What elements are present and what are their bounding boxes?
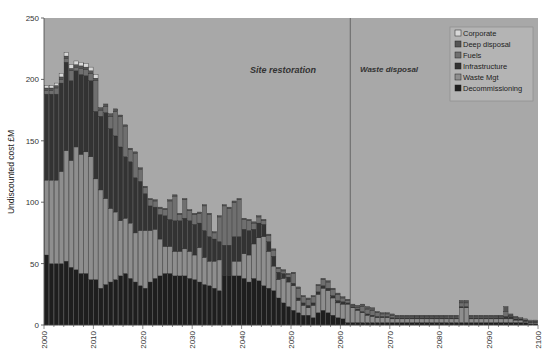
bar-segment	[435, 316, 439, 317]
bar-segment	[301, 305, 305, 315]
x-tick-label: 2010	[89, 330, 98, 348]
bar-segment	[489, 315, 493, 316]
bar-segment	[212, 233, 216, 239]
bar-segment	[99, 288, 103, 325]
bar-segment	[99, 108, 103, 110]
bar-segment	[311, 318, 315, 325]
bar-segment	[113, 109, 117, 111]
bar-segment	[276, 272, 280, 279]
bar-segment	[484, 319, 488, 323]
bar-segment	[316, 286, 320, 292]
bar-segment	[242, 229, 246, 254]
bar-segment	[405, 315, 409, 316]
bar-segment	[74, 65, 78, 67]
bar-segment	[158, 276, 162, 325]
bar-segment	[385, 316, 389, 317]
bar-segment	[405, 318, 409, 319]
y-tick-label: 100	[26, 198, 40, 207]
bar-segment	[420, 319, 424, 323]
bar-segment	[390, 315, 394, 317]
bar-segment	[331, 289, 335, 295]
bar-segment	[79, 273, 83, 325]
bar-segment	[435, 315, 439, 316]
bar-segment	[484, 318, 488, 319]
bar-segment	[44, 255, 48, 325]
bar-segment	[237, 199, 241, 200]
bar-segment	[252, 278, 256, 325]
bar-segment	[148, 206, 152, 231]
bar-segment	[153, 207, 157, 229]
bar-segment	[306, 299, 310, 305]
bar-segment	[104, 104, 108, 106]
bar-segment	[54, 83, 58, 85]
y-tick-label: 50	[30, 260, 39, 269]
bar-segment	[474, 315, 478, 316]
bar-segment	[306, 315, 310, 325]
bar-segment	[59, 77, 63, 79]
bar-segment	[410, 316, 414, 317]
bar-segment	[59, 79, 63, 83]
bar-segment	[286, 275, 290, 277]
bar-segment	[444, 318, 448, 319]
bar-segment	[232, 276, 236, 325]
bar-segment	[138, 230, 142, 285]
bar-segment	[44, 90, 48, 94]
bar-segment	[257, 216, 261, 217]
bar-segment	[173, 251, 177, 276]
bar-segment	[242, 218, 246, 219]
bar-segment	[104, 284, 108, 325]
bar-segment	[484, 315, 488, 316]
bar-segment	[109, 116, 113, 128]
bar-segment	[494, 316, 498, 317]
bar-segment	[430, 319, 434, 323]
bar-segment	[252, 229, 256, 244]
bar-segment	[459, 303, 463, 307]
bar-segment	[89, 280, 93, 325]
bar-segment	[64, 59, 68, 63]
bar-segment	[262, 286, 266, 325]
bar-segment	[346, 304, 350, 322]
bar-segment	[306, 298, 310, 299]
x-axis: 2000201020202030204020502060207020802090…	[40, 325, 543, 349]
bar-segment	[183, 199, 187, 200]
bar-segment	[69, 71, 73, 81]
bar-segment	[202, 284, 206, 325]
bar-segment	[212, 288, 216, 325]
bar-segment	[440, 318, 444, 319]
bar-segment	[415, 315, 419, 316]
bar-segment	[79, 68, 83, 74]
bar-segment	[262, 219, 266, 220]
bar-segment	[425, 316, 429, 317]
bar-segment	[425, 315, 429, 316]
bar-segment	[360, 311, 364, 312]
bar-segment	[94, 111, 98, 179]
bar-segment	[64, 56, 68, 58]
bar-segment	[153, 201, 157, 207]
bar-segment	[341, 297, 345, 298]
bar-segment	[341, 304, 345, 319]
bar-segment	[163, 246, 167, 273]
bar-segment	[133, 178, 137, 233]
bar-segment	[469, 319, 473, 323]
bar-segment	[79, 74, 83, 154]
bar-segment	[128, 223, 132, 278]
bar-segment	[509, 315, 513, 316]
bar-segment	[375, 318, 379, 323]
bar-segment	[336, 293, 340, 294]
bar-segment	[533, 321, 537, 322]
bar-segment	[380, 313, 384, 314]
y-tick-label: 250	[26, 14, 40, 23]
bar-segment	[351, 307, 355, 308]
x-tick-label: 2040	[238, 330, 247, 348]
annotation-site-restoration: Site restoration	[250, 65, 317, 75]
bar-segment	[232, 202, 236, 236]
bar-segment	[207, 261, 211, 286]
bar-segment	[459, 300, 463, 302]
bar-segment	[212, 261, 216, 288]
bar-segment	[232, 237, 236, 262]
bar-segment	[217, 216, 221, 217]
bar-segment	[123, 218, 127, 273]
bar-segment	[449, 318, 453, 319]
bar-segment	[346, 303, 350, 304]
bar-segment	[311, 296, 315, 297]
